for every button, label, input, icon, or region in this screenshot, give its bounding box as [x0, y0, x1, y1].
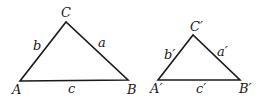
side-c-prime-label: c′ — [196, 81, 206, 96]
vertex-a-label: A — [11, 82, 21, 97]
side-b-prime-label: b′ — [164, 47, 175, 62]
side-c-label: c — [68, 81, 76, 96]
similar-triangles-diagram: C A B b a c C′ A′ B′ b′ a′ c′ — [0, 0, 261, 100]
vertex-b-label: B — [126, 82, 137, 97]
vertex-c-label: C — [61, 5, 71, 20]
side-a-label: a — [98, 35, 106, 50]
vertex-a-prime-label: A′ — [149, 81, 162, 96]
side-a-prime-label: a′ — [217, 44, 228, 59]
triangle-abc-prime: C′ A′ B′ b′ a′ c′ — [149, 19, 252, 96]
triangle-abc: C A B b a c — [11, 5, 137, 97]
vertex-c-prime-label: C′ — [190, 19, 203, 34]
vertex-b-prime-label: B′ — [238, 81, 252, 96]
side-b-label: b — [33, 38, 41, 53]
